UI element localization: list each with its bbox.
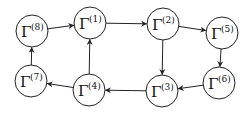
node-gamma-8: Γ(8) — [16, 15, 48, 47]
edge-2-to-3 — [162, 40, 163, 75]
node-superscript: (8) — [31, 22, 44, 32]
node-gamma-6: Γ(6) — [203, 67, 235, 99]
node-label: Γ — [78, 82, 88, 100]
edge-2-to-5 — [179, 26, 206, 30]
node-label: Γ — [152, 16, 162, 34]
node-gamma-7: Γ(7) — [15, 65, 47, 97]
edge-1-to-2 — [106, 23, 147, 24]
edge-3-to-4 — [106, 90, 147, 91]
node-label: Γ — [20, 73, 30, 91]
node-superscript: (7) — [30, 72, 43, 82]
node-label: Γ — [208, 75, 218, 93]
node-label: Γ — [211, 25, 221, 43]
node-gamma-1: Γ(1) — [74, 7, 106, 39]
node-superscript: (5) — [221, 24, 234, 34]
node-gamma-5: Γ(5) — [206, 17, 238, 49]
node-label: Γ — [151, 83, 161, 101]
node-superscript: (4) — [88, 81, 101, 91]
edge-8-to-1 — [48, 25, 74, 29]
node-gamma-2: Γ(2) — [147, 8, 179, 40]
node-gamma-3: Γ(3) — [146, 75, 178, 107]
nodes: Γ(1)Γ(2)Γ(3)Γ(4)Γ(5)Γ(6)Γ(7)Γ(8) — [15, 7, 238, 107]
node-superscript: (3) — [161, 82, 174, 92]
edge-4-to-7 — [47, 84, 73, 88]
node-superscript: (1) — [89, 14, 102, 24]
directed-graph: Γ(1)Γ(2)Γ(3)Γ(4)Γ(5)Γ(6)Γ(7)Γ(8) — [0, 0, 252, 118]
node-superscript: (2) — [162, 15, 175, 25]
edge-6-to-3 — [178, 85, 203, 89]
node-superscript: (6) — [218, 74, 231, 84]
edge-5-to-6 — [220, 49, 221, 67]
node-gamma-4: Γ(4) — [73, 74, 105, 106]
node-label: Γ — [21, 23, 31, 41]
node-label: Γ — [79, 15, 89, 33]
edges — [31, 23, 221, 91]
edge-4-to-1 — [89, 40, 90, 75]
